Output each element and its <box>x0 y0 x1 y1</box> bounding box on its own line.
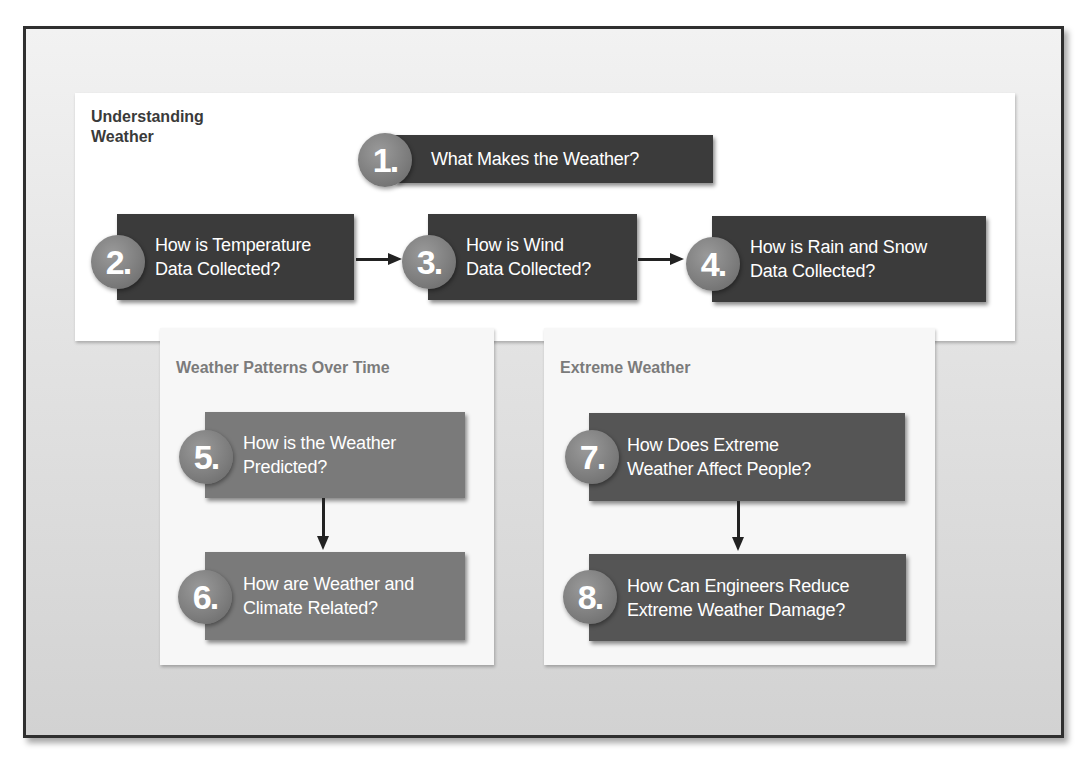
step-8-box: How Can Engineers Reduce Extreme Weather… <box>589 554 906 641</box>
step-6-badge: 6. <box>178 570 232 624</box>
step-6-label: How are Weather and Climate Related? <box>205 572 414 620</box>
step-4-label: How is Rain and Snow Data Collected? <box>712 235 927 283</box>
arrow-down-icon <box>318 498 329 550</box>
step-2-badge: 2. <box>91 235 145 289</box>
arrow-down-icon <box>733 501 744 551</box>
step-1-badge: 1. <box>358 133 412 187</box>
panel-title-extreme-weather: Extreme Weather <box>560 358 690 378</box>
step-3-badge: 3. <box>402 235 456 289</box>
step-3-box: How is Wind Data Collected? <box>428 214 637 300</box>
step-5-badge: 5. <box>179 430 233 484</box>
step-4-badge: 4. <box>686 237 740 291</box>
step-7-badge: 7. <box>565 430 619 484</box>
step-5-label: How is the Weather Predicted? <box>205 431 396 479</box>
step-4-box: How is Rain and Snow Data Collected? <box>712 216 986 302</box>
step-8-label: How Can Engineers Reduce Extreme Weather… <box>589 574 849 622</box>
panel-title-understanding-weather: Understanding Weather <box>91 107 251 147</box>
step-2-box: How is Temperature Data Collected? <box>117 214 354 300</box>
step-7-box: How Does Extreme Weather Affect People? <box>589 413 905 501</box>
step-7-label: How Does Extreme Weather Affect People? <box>589 433 811 481</box>
step-6-box: How are Weather and Climate Related? <box>205 552 465 640</box>
step-1-label: What Makes the Weather? <box>395 147 639 171</box>
arrow-right-icon <box>356 255 402 264</box>
arrow-right-icon <box>638 255 684 264</box>
step-5-box: How is the Weather Predicted? <box>205 412 465 498</box>
step-1-box: What Makes the Weather? <box>395 135 713 183</box>
panel-title-weather-patterns: Weather Patterns Over Time <box>176 358 390 378</box>
step-8-badge: 8. <box>563 570 617 624</box>
step-2-label: How is Temperature Data Collected? <box>117 233 311 281</box>
